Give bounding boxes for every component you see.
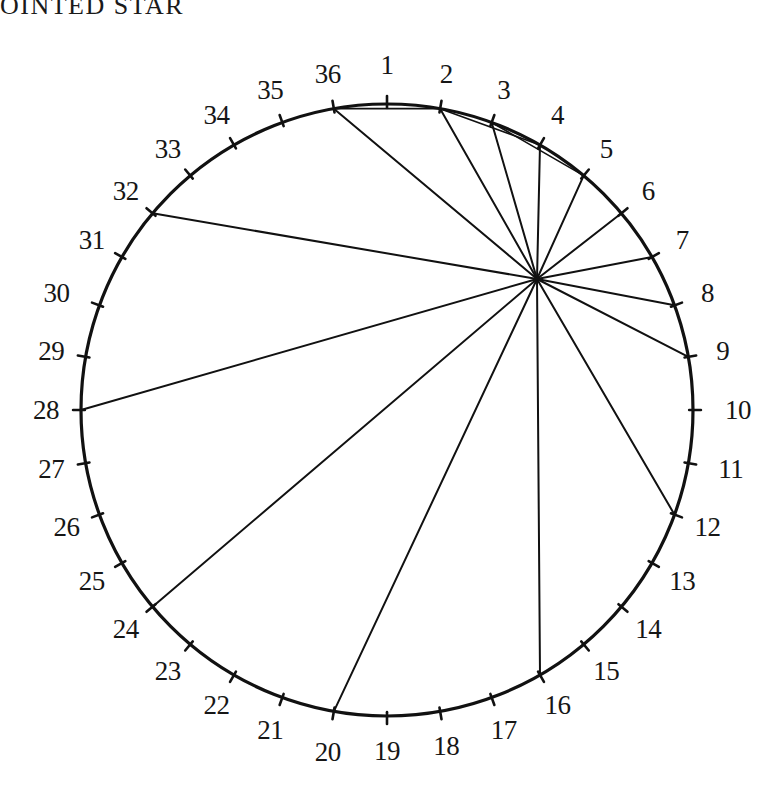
- point-label-16: 16: [545, 690, 571, 721]
- point-label-25: 25: [79, 565, 105, 596]
- chord-node-to-5: [537, 176, 584, 279]
- star-construction-figure: [0, 0, 773, 808]
- point-label-4: 4: [551, 99, 564, 130]
- point-label-19: 19: [374, 736, 400, 767]
- tick-mark-18: [439, 708, 441, 720]
- chords-layer: [81, 109, 688, 712]
- chord-node-to-6: [537, 213, 621, 279]
- tick-mark-20: [332, 708, 334, 720]
- tick-mark-11: [685, 462, 697, 464]
- chord-node-to-8: [537, 279, 675, 305]
- point-label-24: 24: [113, 614, 139, 645]
- chord-node-to-24: [153, 279, 537, 607]
- point-label-9: 9: [716, 335, 729, 366]
- point-label-11: 11: [718, 454, 743, 485]
- point-label-13: 13: [669, 565, 695, 596]
- point-label-28: 28: [33, 395, 59, 426]
- point-label-17: 17: [491, 715, 517, 746]
- chord-node-to-4: [537, 145, 540, 279]
- chord-node-to-32: [153, 213, 537, 279]
- chord-node-to-3: [492, 122, 537, 279]
- tick-mark-36: [332, 101, 334, 113]
- point-label-35: 35: [257, 74, 283, 105]
- point-label-12: 12: [694, 511, 720, 542]
- chord-node-to-28: [81, 279, 537, 410]
- circle-outline: [81, 104, 693, 716]
- point-label-10: 10: [725, 395, 751, 426]
- point-label-2: 2: [440, 59, 453, 90]
- chord-node-to-7: [537, 257, 652, 279]
- point-label-21: 21: [257, 715, 283, 746]
- point-label-31: 31: [79, 224, 105, 255]
- chord-node-to-36: [334, 109, 537, 279]
- point-label-27: 27: [38, 454, 64, 485]
- point-label-29: 29: [38, 335, 64, 366]
- point-label-5: 5: [600, 133, 613, 164]
- point-label-26: 26: [54, 511, 80, 542]
- point-label-36: 36: [315, 59, 341, 90]
- point-label-14: 14: [635, 614, 661, 645]
- point-label-6: 6: [642, 175, 655, 206]
- point-label-20: 20: [315, 736, 341, 767]
- circle-outline-layer: [81, 104, 693, 716]
- point-label-23: 23: [155, 656, 181, 687]
- point-label-18: 18: [433, 730, 459, 761]
- chord-node-to-20: [334, 279, 537, 711]
- point-label-33: 33: [155, 133, 181, 164]
- point-label-3: 3: [497, 74, 510, 105]
- tick-mark-27: [78, 462, 90, 464]
- point-label-22: 22: [204, 690, 230, 721]
- point-label-30: 30: [44, 278, 70, 309]
- point-label-1: 1: [381, 50, 394, 81]
- point-label-8: 8: [701, 278, 714, 309]
- point-label-32: 32: [113, 175, 139, 206]
- tick-marks-layer: [73, 96, 701, 724]
- chord-node-to-16: [537, 279, 540, 675]
- tick-mark-29: [78, 355, 90, 357]
- point-label-15: 15: [593, 656, 619, 687]
- point-label-7: 7: [676, 224, 689, 255]
- point-label-34: 34: [204, 99, 230, 130]
